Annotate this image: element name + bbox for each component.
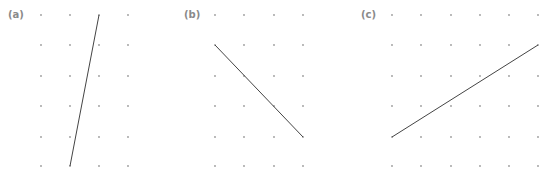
- grid-dot: [98, 44, 100, 46]
- grid-dot: [450, 165, 452, 167]
- grid-dot: [40, 165, 42, 167]
- grid-dot: [302, 14, 304, 16]
- grid-dot: [302, 165, 304, 167]
- grid-dot: [98, 136, 100, 138]
- grid-dot: [479, 14, 481, 16]
- grid-dot: [537, 165, 539, 167]
- grid-dot: [479, 165, 481, 167]
- line-segment: [70, 15, 99, 166]
- grid-dot: [69, 44, 71, 46]
- grid-dot: [508, 105, 510, 107]
- grid-dot: [69, 14, 71, 16]
- grid-dot: [273, 136, 275, 138]
- panel-b: [214, 14, 304, 167]
- grid-dot: [40, 44, 42, 46]
- grid-dot: [98, 75, 100, 77]
- grid-dot: [273, 75, 275, 77]
- grid-dot: [40, 136, 42, 138]
- grid-dot: [420, 165, 422, 167]
- grid-dot: [273, 44, 275, 46]
- grid-dot: [40, 14, 42, 16]
- grid-dot: [508, 75, 510, 77]
- grid-dot: [127, 105, 129, 107]
- grid-dot: [391, 105, 393, 107]
- grid-dot: [420, 136, 422, 138]
- grid-dot: [243, 14, 245, 16]
- grid-dot: [450, 44, 452, 46]
- grid-dot: [273, 14, 275, 16]
- dot-grid-canvas: [0, 0, 543, 177]
- grid-dot: [508, 136, 510, 138]
- grid-dot: [420, 44, 422, 46]
- line-segment: [215, 45, 303, 137]
- grid-dot: [450, 75, 452, 77]
- grid-dot: [391, 75, 393, 77]
- grid-dot: [214, 136, 216, 138]
- grid-dot: [243, 44, 245, 46]
- grid-dot: [127, 136, 129, 138]
- grid-dot: [273, 165, 275, 167]
- grid-dot: [391, 44, 393, 46]
- grid-dot: [98, 165, 100, 167]
- grid-dot: [98, 105, 100, 107]
- grid-dot: [537, 75, 539, 77]
- grid-dot: [40, 105, 42, 107]
- grid-dot: [537, 14, 539, 16]
- grid-dot: [127, 75, 129, 77]
- grid-dot: [508, 165, 510, 167]
- grid-dot: [479, 105, 481, 107]
- grid-dot: [508, 44, 510, 46]
- grid-dot: [537, 136, 539, 138]
- grid-dot: [420, 14, 422, 16]
- grid-dot: [450, 14, 452, 16]
- grid-dot: [243, 165, 245, 167]
- grid-dot: [214, 105, 216, 107]
- grid-dot: [69, 136, 71, 138]
- grid-dot: [302, 44, 304, 46]
- grid-dot: [508, 14, 510, 16]
- grid-dot: [69, 105, 71, 107]
- grid-dot: [479, 136, 481, 138]
- grid-dot: [243, 105, 245, 107]
- grid-dot: [214, 14, 216, 16]
- grid-dot: [214, 75, 216, 77]
- grid-dot: [420, 105, 422, 107]
- grid-dot: [127, 44, 129, 46]
- grid-dot: [69, 75, 71, 77]
- grid-dot: [420, 75, 422, 77]
- panel-a: [40, 14, 129, 167]
- grid-dot: [479, 75, 481, 77]
- grid-dot: [391, 165, 393, 167]
- line-segment: [392, 45, 538, 137]
- grid-dot: [127, 14, 129, 16]
- grid-dot: [450, 136, 452, 138]
- grid-dot: [450, 105, 452, 107]
- grid-dot: [537, 105, 539, 107]
- grid-dot: [479, 44, 481, 46]
- grid-dot: [302, 75, 304, 77]
- grid-dot: [214, 165, 216, 167]
- grid-dot: [127, 165, 129, 167]
- grid-dot: [391, 14, 393, 16]
- grid-dot: [302, 105, 304, 107]
- grid-dot: [40, 75, 42, 77]
- panel-c: [391, 14, 539, 167]
- grid-dot: [243, 136, 245, 138]
